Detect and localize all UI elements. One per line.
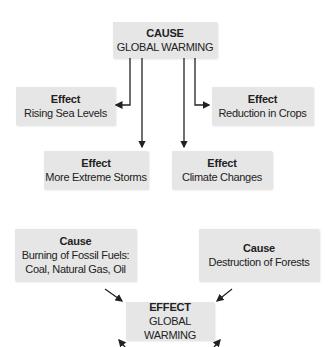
box-title: Effect <box>16 93 115 106</box>
box-text-line2: Coal, Natural Gas, Oil <box>15 262 136 276</box>
box-title: Cause <box>15 235 136 248</box>
effect-box-global-warming: EFFECT GLOBAL WARMING <box>126 302 214 340</box>
cause-box-forests: Cause Destruction of Forests <box>199 229 319 281</box>
effect-box-storms: Effect More Extreme Storms <box>44 151 148 189</box>
cause-box-global-warming: CAUSE GLOBAL WARMING <box>113 22 217 58</box>
box-title: Effect <box>172 157 272 170</box>
box-text: Reduction in Crops <box>212 106 313 120</box>
box-text: GLOBAL WARMING <box>126 314 214 342</box>
box-title: Effect <box>212 93 313 106</box>
box-text: Climate Changes <box>172 170 272 184</box>
box-text-line1: Burning of Fossil Fuels: <box>15 248 136 262</box>
box-title: CAUSE <box>113 27 217 40</box>
box-text: Destruction of Forests <box>199 255 319 269</box>
box-text: Rising Sea Levels <box>16 106 115 120</box>
effect-box-crops: Effect Reduction in Crops <box>212 87 313 125</box>
effect-box-climate: Effect Climate Changes <box>172 151 272 189</box>
box-text: GLOBAL WARMING <box>113 40 217 54</box>
box-title: EFFECT <box>126 301 214 314</box>
effect-box-sea-levels: Effect Rising Sea Levels <box>16 87 115 125</box>
box-title: Cause <box>199 242 319 255</box>
cause-box-fossil-fuels: Cause Burning of Fossil Fuels: Coal, Nat… <box>15 229 136 281</box>
box-text: More Extreme Storms <box>44 170 148 184</box>
box-title: Effect <box>44 157 148 170</box>
